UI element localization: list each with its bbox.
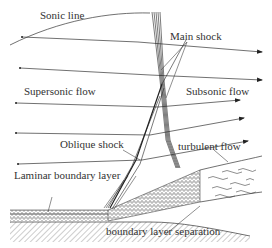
label-oblique-shock: Oblique shock [60, 138, 124, 150]
label-main-shock: Main shock [170, 30, 222, 42]
label-laminar-boundary-layer: Laminar boundary layer [14, 169, 121, 181]
laminar-boundary-layer-band [10, 210, 108, 221]
label-supersonic-flow: Supersonic flow [24, 85, 96, 97]
separation-region [108, 170, 200, 221]
label-subsonic-flow: Subsonic flow [186, 85, 249, 97]
turbulent-region-outline [200, 156, 262, 170]
label-turbulent-flow: turbulent flow [178, 140, 241, 152]
turbulent-eddies [208, 169, 256, 198]
shock-boundary-layer-diagram: Sonic line Main shock Supersonic flow Su… [0, 0, 272, 248]
label-boundary-layer-separation: boundary layer separation [106, 225, 221, 237]
label-sonic-line: Sonic line [40, 9, 84, 21]
